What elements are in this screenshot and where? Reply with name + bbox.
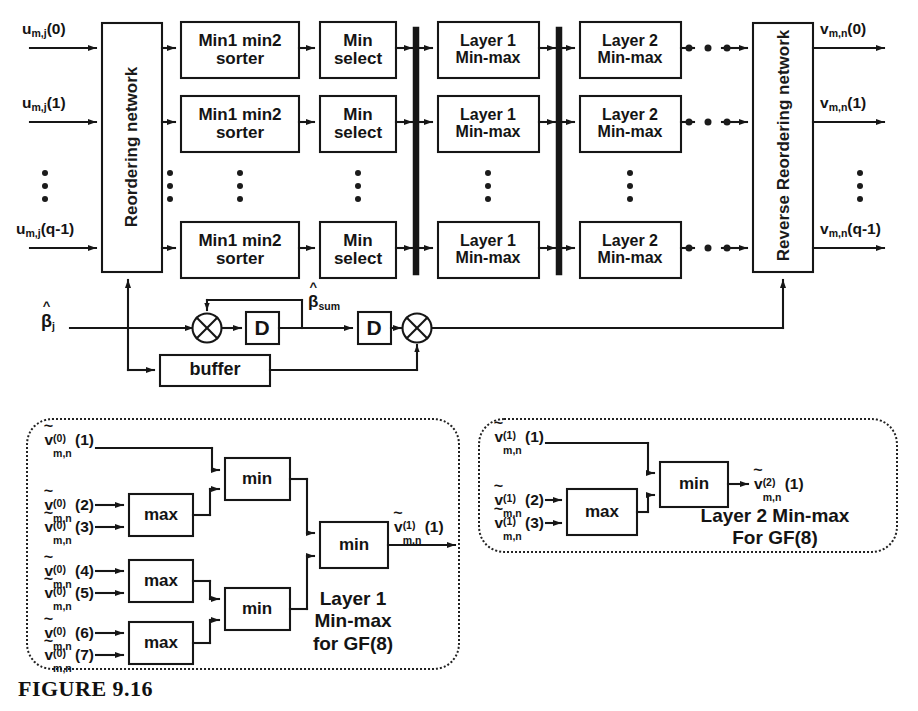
min-label-bottom: min — [242, 600, 272, 618]
stage-ellipsis-row1 — [680, 45, 737, 52]
layer1-input-3: v(0)m,n(3) — [44, 519, 94, 535]
layer2-input-3: v(1)m,n(3) — [494, 515, 544, 531]
delay-label-1: D — [254, 317, 269, 339]
sorter-label-row3: Min1 min2sorter — [198, 232, 281, 268]
sorter-label-row1: Min1 min2sorter — [198, 32, 281, 68]
layer1-label-row1: Layer 1Min-max — [456, 33, 521, 67]
layer1-output-label: v(1)m,n(1) — [394, 519, 444, 535]
layer1-input-1: v(0)m,n(1) — [44, 432, 94, 448]
input-ellipsis — [42, 163, 48, 209]
input-label-0: um,j(0) — [22, 21, 66, 39]
layer1-label-row2: Layer 1Min-max — [456, 107, 521, 141]
layer1-label-row3: Layer 1Min-max — [456, 233, 521, 267]
min-select-ellipsis — [355, 163, 361, 209]
layer2-input-1: v(1)m,n(1) — [494, 429, 544, 445]
output-label-0: vm,n(0) — [820, 21, 866, 39]
min-select-label-row3: Minselect — [334, 232, 382, 268]
max-label-l2: max — [585, 503, 619, 521]
min-select-label-row2: Minselect — [334, 106, 382, 142]
layer2-label-row2: Layer 2Min-max — [598, 107, 663, 141]
figure-caption: FIGURE 9.16 — [18, 676, 153, 702]
beta-j-label: ^βj — [41, 312, 55, 332]
sorter-ellipsis — [237, 163, 243, 209]
min-select-label-row1: Minselect — [334, 32, 382, 68]
layer1-input-7: v(0)m,n(7) — [44, 647, 94, 663]
layer2-title: Layer 2 Min-maxFor GF(8) — [701, 505, 850, 550]
layer2-label-row3: Layer 2Min-max — [598, 233, 663, 267]
input-label-1: um,j(1) — [22, 95, 66, 113]
layer1-title: Layer 1Min-maxfor GF(8) — [313, 588, 393, 655]
min-label-final: min — [339, 536, 369, 554]
reverse-reordering-network-label: Reverse Reordering network — [775, 24, 792, 268]
layer2-output-label: v(2)m,n(1) — [754, 476, 804, 492]
max-label-1: max — [144, 506, 178, 524]
min-label-top: min — [242, 470, 272, 488]
sorter-label-row2: Min1 min2sorter — [198, 106, 281, 142]
stage-ellipsis-row3 — [680, 245, 737, 252]
buffer-label: buffer — [190, 360, 241, 379]
output-label-1: vm,n(1) — [820, 95, 866, 113]
figure-9-16: Reordering network Reverse Reordering ne… — [0, 0, 918, 711]
input-label-2: um,j(q-1) — [16, 221, 74, 239]
layer1-input-5: v(0)m,n(5) — [44, 585, 94, 601]
min-label-l2: min — [679, 475, 709, 493]
layer2-label-row1: Layer 2Min-max — [598, 33, 663, 67]
output-ellipsis — [857, 163, 863, 209]
max-label-3: max — [144, 634, 178, 652]
layer2-ellipsis — [627, 163, 633, 209]
delay-label-2: D — [366, 317, 381, 339]
layer1-ellipsis — [485, 163, 491, 209]
reordering-network-label: Reordering network — [122, 27, 142, 267]
max-label-2: max — [144, 572, 178, 590]
stage-ellipsis-row2 — [680, 119, 737, 126]
output-label-2: vm,n(q-1) — [820, 221, 881, 239]
beta-sum-label: ^βsum — [308, 293, 340, 312]
reordering-out-ellipsis — [167, 163, 173, 209]
